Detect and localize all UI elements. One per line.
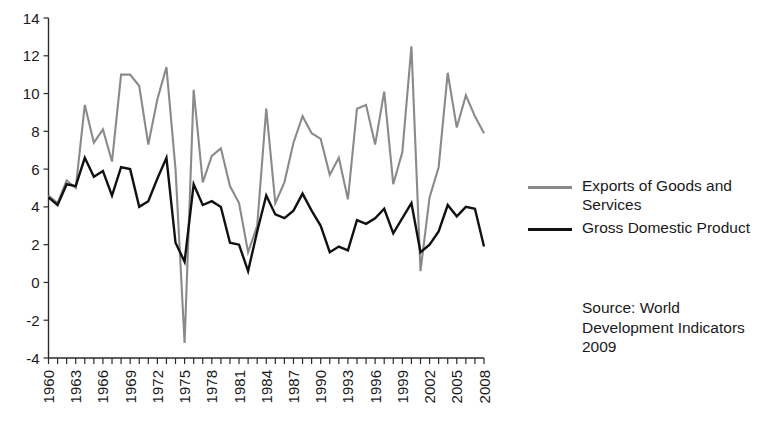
x-tick-label: 1999	[394, 370, 411, 403]
y-tick-label: 2	[31, 236, 39, 253]
y-tick-label: 8	[31, 123, 39, 140]
x-axis: 1960196319661969197219751978198119841987…	[40, 358, 493, 403]
x-tick-label: 1978	[203, 370, 220, 403]
x-tick-label: 1987	[285, 370, 302, 403]
y-tick-label: 10	[23, 85, 40, 102]
x-tick-label: 1966	[94, 370, 111, 403]
y-tick-label: 0	[31, 274, 39, 291]
legend-label-exports: Exports of Goods and Services	[582, 176, 768, 214]
y-tick-label: 4	[31, 198, 39, 215]
chart-figure: 14121086420-2-4 196019631966196919721975…	[0, 0, 775, 424]
x-tick-label: 1969	[122, 370, 139, 403]
x-tick-label: 1996	[367, 370, 384, 403]
x-tick-label: 1981	[231, 370, 248, 403]
source-note: Source: World Development Indicators 200…	[582, 298, 772, 357]
x-tick-label: 1972	[149, 370, 166, 403]
legend-item-gdp: Gross Domestic Product	[528, 218, 772, 237]
series-lines	[49, 46, 485, 343]
chart-legend: Exports of Goods and Services Gross Dome…	[528, 176, 772, 241]
x-tick-label: 2008	[476, 370, 493, 403]
x-tick-label: 1984	[258, 370, 275, 403]
legend-item-exports: Exports of Goods and Services	[528, 176, 772, 214]
x-tick-label: 2005	[448, 370, 465, 403]
y-tick-label: 6	[31, 161, 39, 178]
legend-swatch-gdp-icon	[528, 221, 572, 237]
x-tick-label: 1960	[40, 370, 57, 403]
y-axis: 14121086420-2-4	[23, 10, 49, 367]
y-tick-label: -4	[26, 350, 39, 367]
legend-swatch-exports-icon	[528, 179, 572, 195]
y-tick-label: 12	[23, 47, 40, 64]
y-tick-label: -2	[26, 312, 39, 329]
x-tick-label: 1993	[339, 370, 356, 403]
x-tick-label: 1963	[67, 370, 84, 403]
y-tick-label: 14	[23, 10, 40, 27]
legend-label-gdp: Gross Domestic Product	[582, 218, 750, 237]
x-tick-label: 1975	[176, 370, 193, 403]
x-tick-label: 1990	[312, 370, 329, 403]
x-tick-label: 2002	[421, 370, 438, 403]
